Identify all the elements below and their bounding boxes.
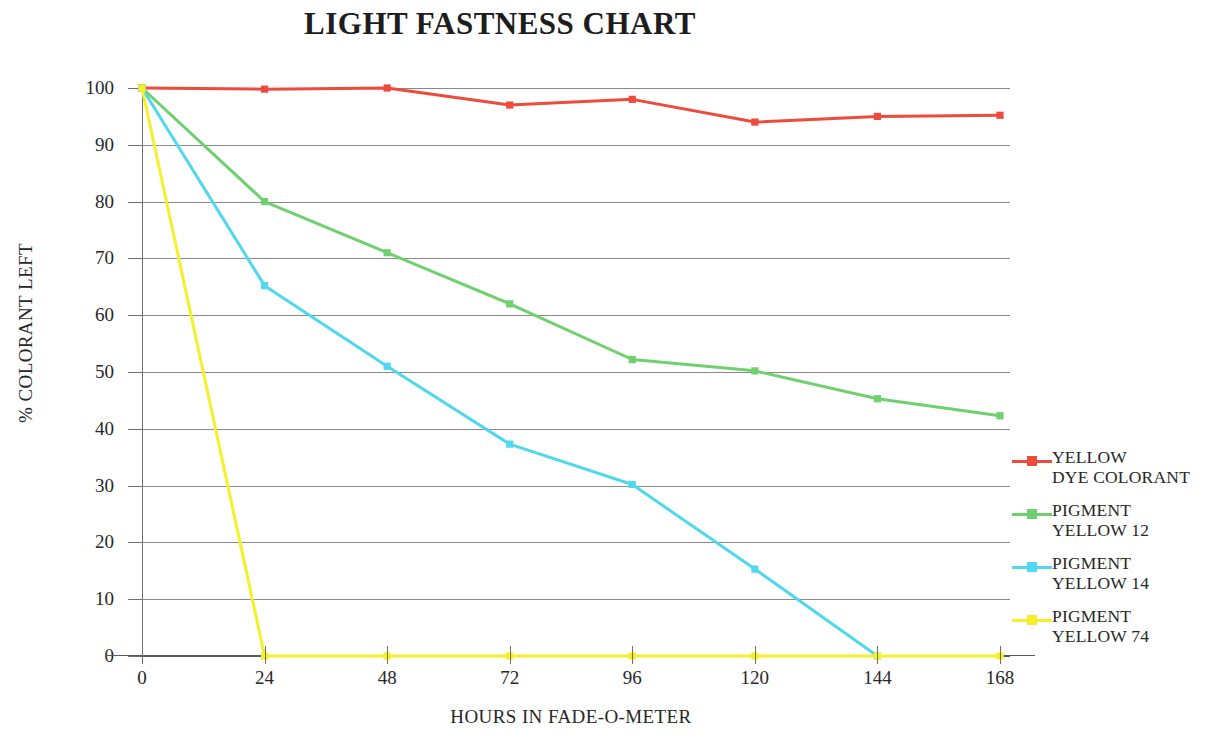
gridline <box>142 429 1010 430</box>
gridline <box>142 258 1010 259</box>
legend-item[interactable]: PIGMENT YELLOW 12 <box>1012 501 1209 541</box>
legend-swatch-icon <box>1012 610 1052 630</box>
y-axis-tick-label: 70 <box>44 248 114 267</box>
legend-marker <box>1027 562 1037 572</box>
legend-swatch-icon <box>1012 557 1052 577</box>
legend-marker <box>1027 509 1037 519</box>
light-fastness-chart: LIGHT FASTNESS CHART % COLORANT LEFT HOU… <box>0 0 1209 736</box>
y-axis-tick-group: 0102030405060708090100 <box>0 0 120 736</box>
legend-label: PIGMENT YELLOW 74 <box>1052 607 1149 647</box>
x-axis-tick <box>265 646 266 664</box>
x-axis-tick-label: 168 <box>960 668 1040 687</box>
gridline <box>142 599 1010 600</box>
x-axis-tick <box>1000 646 1001 664</box>
y-axis-tick <box>128 202 142 203</box>
gridline <box>142 202 1010 203</box>
x-axis-tick <box>755 646 756 664</box>
y-axis-tick <box>128 486 142 487</box>
legend-swatch-icon <box>1012 504 1052 524</box>
legend-item[interactable]: PIGMENT YELLOW 14 <box>1012 554 1209 594</box>
x-axis-tick <box>877 646 878 664</box>
y-axis-tick <box>128 542 142 543</box>
gridline <box>142 542 1010 543</box>
y-axis-tick-label: 60 <box>44 305 114 324</box>
gridline <box>142 145 1010 146</box>
x-axis-tick <box>632 646 633 664</box>
legend-label: YELLOW DYE COLORANT <box>1052 448 1190 488</box>
x-axis-tick-label: 144 <box>837 668 917 687</box>
gridline <box>142 88 1010 89</box>
y-axis-tick <box>128 145 142 146</box>
legend-item[interactable]: YELLOW DYE COLORANT <box>1012 448 1209 488</box>
x-axis-tick-label: 48 <box>347 668 427 687</box>
y-axis-tick-label: 40 <box>44 419 114 438</box>
y-axis-tick-label: 50 <box>44 362 114 381</box>
y-axis-tick-label: 80 <box>44 192 114 211</box>
legend-label: PIGMENT YELLOW 14 <box>1052 554 1149 594</box>
legend-item[interactable]: PIGMENT YELLOW 74 <box>1012 607 1209 647</box>
y-axis-tick <box>128 88 142 89</box>
legend-label: PIGMENT YELLOW 12 <box>1052 501 1149 541</box>
x-axis-tick-label: 120 <box>715 668 795 687</box>
y-axis-tick <box>128 258 142 259</box>
x-axis-title: HOURS IN FADE-O-METER <box>142 706 1000 728</box>
y-axis-tick-label: 30 <box>44 476 114 495</box>
plot-area <box>142 88 1000 656</box>
gridline <box>142 486 1010 487</box>
x-axis-tick-label: 96 <box>592 668 672 687</box>
y-axis-tick <box>128 315 142 316</box>
chart-legend: YELLOW DYE COLORANTPIGMENT YELLOW 12PIGM… <box>1012 448 1209 660</box>
y-axis-tick <box>128 372 142 373</box>
x-axis-tick-label: 0 <box>102 668 182 687</box>
gridline <box>142 372 1010 373</box>
x-axis-tick <box>142 646 143 664</box>
gridline <box>142 315 1010 316</box>
y-axis-tick-label: 90 <box>44 135 114 154</box>
y-axis-tick-label: 20 <box>44 532 114 551</box>
y-axis-tick <box>128 656 142 657</box>
y-axis-tick-label: 0 <box>44 646 114 665</box>
gridline <box>142 656 1010 657</box>
legend-swatch-icon <box>1012 451 1052 471</box>
x-axis-tick-label: 24 <box>225 668 305 687</box>
x-axis-tick <box>510 646 511 664</box>
x-axis-tick <box>387 646 388 664</box>
legend-marker <box>1027 615 1037 625</box>
y-axis-tick <box>128 429 142 430</box>
x-axis-tick-label: 72 <box>470 668 550 687</box>
y-axis-tick-label: 100 <box>44 78 114 97</box>
chart-title: LIGHT FASTNESS CHART <box>0 6 1000 42</box>
y-axis-tick-label: 10 <box>44 589 114 608</box>
legend-marker <box>1027 456 1037 466</box>
y-axis-tick <box>128 599 142 600</box>
